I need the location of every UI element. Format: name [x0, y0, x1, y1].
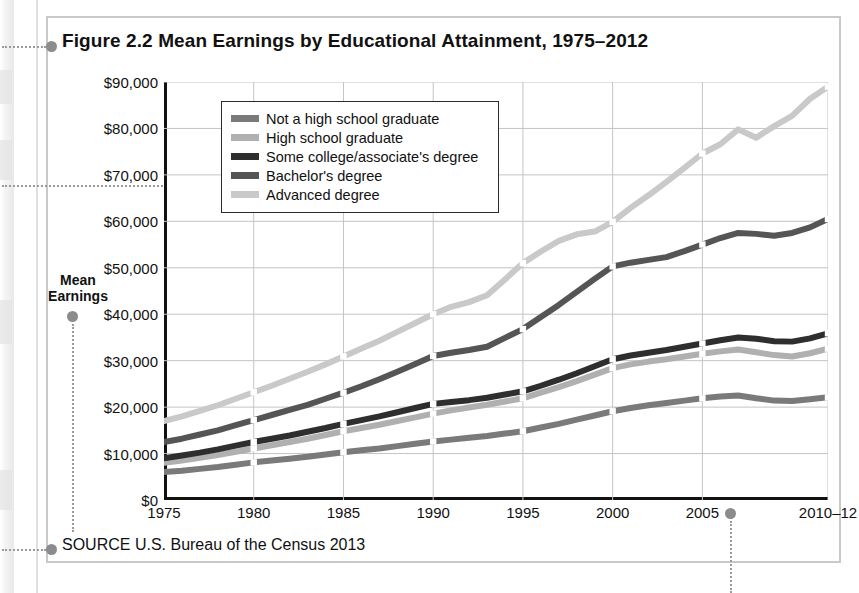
source-callout-dot [46, 544, 57, 555]
y-axis-tick-label: $20,000 [104, 399, 158, 416]
legend-swatch-icon [231, 134, 259, 141]
series-point-marker [340, 428, 346, 434]
y-axis-tick-labels: $90,000$80,000$70,000$60,000$50,000$40,0… [72, 82, 158, 500]
legend-swatch-icon [231, 153, 259, 160]
legend-label: Advanced degree [266, 187, 380, 203]
legend-item: High school graduate [231, 128, 489, 147]
series-point-marker [609, 356, 615, 362]
series-point-marker [251, 439, 257, 445]
figure-source: SOURCE U.S. Bureau of the Census 2013 [62, 536, 365, 554]
y-axis-tick-label: $50,000 [104, 259, 158, 276]
y-axis-tick-label: $60,000 [104, 213, 158, 230]
series-point-marker [520, 428, 526, 434]
series-point-marker [340, 421, 346, 427]
x-axis-tick-label: 1975 [147, 504, 180, 521]
chart-legend: Not a high school graduateHigh school gr… [221, 101, 499, 213]
scan-smudge-2 [0, 140, 12, 180]
series-point-marker [340, 390, 346, 396]
y-axis-tick-label: $10,000 [104, 445, 158, 462]
series-point-marker [430, 311, 436, 317]
x-axis-tick-labels: 19751980198519901995200020052010–12 [164, 504, 828, 526]
legend-item: Advanced degree [231, 185, 489, 204]
y-axis-tick-label: $30,000 [104, 352, 158, 369]
x-axis-tick-label: 2010–12 [799, 504, 857, 521]
scan-smudge-3 [0, 300, 12, 344]
series-point-marker [430, 410, 436, 416]
series-point-marker [340, 353, 346, 359]
legend-item: Some college/associate's degree [231, 147, 489, 166]
series-point-marker [340, 449, 346, 455]
series-point-marker [699, 340, 705, 346]
legend-item: Bachelor's degree [231, 166, 489, 185]
series-line [164, 349, 828, 463]
legend-swatch-icon [231, 115, 259, 122]
series-point-marker [609, 365, 615, 371]
y-axis-tick-label: $90,000 [104, 74, 158, 91]
legend-swatch-icon [231, 191, 259, 198]
series-line [164, 219, 828, 442]
x-axis-tick-label: 1995 [506, 504, 539, 521]
series-point-marker [520, 388, 526, 394]
series-point-marker [699, 395, 705, 401]
xaxis-callout-leader [730, 521, 732, 593]
series-point-marker [430, 401, 436, 407]
y-axis-tick-label: $80,000 [104, 120, 158, 137]
scan-smudge-1 [0, 70, 12, 104]
series-point-marker [430, 353, 436, 359]
series-point-marker [430, 438, 436, 444]
series-point-marker [699, 351, 705, 357]
y-axis-tick-label: $70,000 [104, 166, 158, 183]
series-point-marker [251, 389, 257, 395]
series-point-marker [251, 417, 257, 423]
legend-label: Some college/associate's degree [266, 149, 478, 165]
series-point-marker [699, 241, 705, 247]
x-axis-tick-label: 1985 [327, 504, 360, 521]
x-axis-tick-label: 2005 [686, 504, 719, 521]
legend-item: Not a high school graduate [231, 109, 489, 128]
series-point-marker [825, 394, 828, 400]
y-axis-tick-label: $40,000 [104, 306, 158, 323]
figure-title: Figure 2.2 Mean Earnings by Educational … [62, 30, 648, 52]
x-axis-tick-label: 2000 [596, 504, 629, 521]
series-point-marker [609, 408, 615, 414]
series-point-marker [825, 345, 828, 351]
x-axis-tick-label: 1990 [417, 504, 450, 521]
title-callout-leader [2, 46, 46, 48]
legend-label: High school graduate [266, 130, 403, 146]
series-point-marker [825, 330, 828, 336]
title-callout-dot [46, 41, 57, 52]
series-point-marker [825, 83, 828, 89]
series-point-marker [520, 395, 526, 401]
legend-label: Not a high school graduate [266, 111, 439, 127]
series-point-marker [520, 326, 526, 332]
x-axis-tick-label: 1980 [237, 504, 270, 521]
series-point-marker [609, 263, 615, 269]
legend-swatch-icon [231, 172, 259, 179]
source-callout-leader [2, 549, 46, 551]
series-point-marker [520, 260, 526, 266]
series-point-marker [251, 445, 257, 451]
series-point-marker [251, 459, 257, 465]
series-point-marker [825, 216, 828, 222]
scan-smudge-4 [0, 470, 12, 510]
series-point-marker [609, 219, 615, 225]
series-point-marker [699, 150, 705, 156]
legend-label: Bachelor's degree [266, 168, 382, 184]
